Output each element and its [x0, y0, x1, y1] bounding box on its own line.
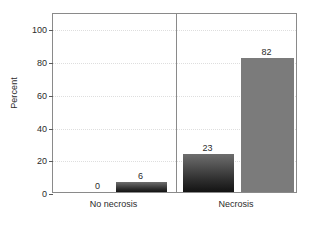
y-tick-mark: [49, 161, 53, 162]
bar: [116, 182, 167, 192]
y-tick-mark: [49, 63, 53, 64]
y-tick-label: 0: [42, 190, 47, 199]
gridline: [53, 30, 296, 31]
y-tick-mark: [49, 129, 53, 130]
y-tick-mark: [49, 96, 53, 97]
y-tick-label: 80: [37, 59, 47, 68]
bar-value-label: 6: [115, 172, 166, 181]
y-tick-label: 60: [37, 91, 47, 100]
bar: [183, 154, 234, 192]
bar-value-label: 82: [240, 48, 293, 57]
y-tick-label: 40: [37, 124, 47, 133]
bar-value-label: 23: [182, 144, 233, 153]
y-axis-title: Percent: [9, 53, 19, 133]
bar: [241, 58, 294, 192]
plot-area: 020406080100: [52, 13, 297, 193]
category-label: Necrosis: [175, 200, 297, 209]
category-label: No necrosis: [52, 200, 175, 209]
group-divider: [176, 14, 177, 192]
bar-value-label: 0: [72, 182, 123, 191]
y-tick-label: 20: [37, 157, 47, 166]
y-tick-label: 100: [32, 26, 47, 35]
plot-inner: 020406080100: [53, 14, 296, 192]
y-tick-mark: [49, 30, 53, 31]
bar-chart: Percent 020406080100 062382 No necrosisN…: [0, 0, 318, 230]
y-tick-mark: [49, 194, 53, 195]
